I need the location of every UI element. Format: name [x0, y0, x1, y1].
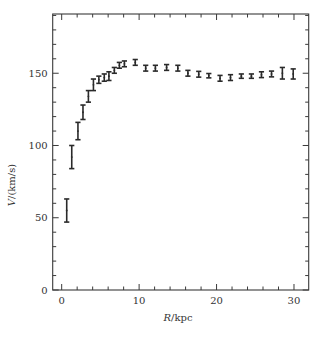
data-point — [106, 72, 111, 81]
y-axis-label-unit: /(km/s) — [6, 164, 17, 199]
data-point — [143, 65, 148, 71]
data-point — [259, 72, 264, 78]
x-tick-label: 30 — [288, 295, 301, 306]
data-point — [86, 91, 91, 103]
x-axis-ticks — [62, 14, 294, 290]
marker — [145, 67, 147, 69]
y-tick-label: 150 — [29, 68, 48, 79]
marker — [240, 75, 242, 77]
y-tick-labels: 050100150 — [29, 68, 48, 296]
data-point — [64, 199, 69, 222]
marker — [187, 72, 189, 74]
data-point — [122, 61, 127, 67]
marker — [66, 210, 68, 212]
marker — [93, 84, 95, 86]
marker — [113, 69, 115, 71]
x-tick-label: 10 — [133, 295, 146, 306]
data-point — [269, 71, 274, 77]
rotation-curve-chart: 0102030 050100150 R/kpc V/(km/s) — [0, 0, 320, 337]
data-point — [175, 65, 180, 71]
x-tick-label: 20 — [210, 295, 223, 306]
data-point — [91, 79, 96, 91]
marker — [134, 62, 136, 64]
data-point — [249, 74, 254, 78]
data-point — [291, 69, 296, 79]
y-tick-label: 100 — [29, 140, 48, 151]
data-point — [102, 74, 107, 81]
marker — [271, 73, 273, 75]
marker — [261, 74, 263, 76]
data-point — [75, 122, 80, 139]
y-axis-ticks — [53, 15, 309, 290]
data-point — [153, 65, 158, 71]
marker — [98, 79, 100, 81]
data-point — [185, 70, 190, 76]
data-point — [117, 62, 122, 68]
marker — [154, 67, 156, 69]
marker — [292, 73, 294, 75]
data-point — [280, 67, 285, 79]
marker — [108, 75, 110, 77]
data-point — [80, 105, 85, 119]
data-point — [239, 74, 244, 78]
data-point — [164, 65, 169, 71]
x-axis-label-unit: /kpc — [171, 312, 193, 323]
y-axis-label: V/(km/s) — [6, 164, 17, 207]
data-point — [133, 60, 138, 66]
marker — [103, 77, 105, 79]
marker — [281, 72, 283, 74]
data-point — [228, 75, 233, 81]
data-point — [206, 74, 211, 78]
marker — [219, 77, 221, 79]
marker — [77, 130, 79, 132]
data-point — [96, 76, 101, 83]
data-point — [217, 75, 222, 81]
marker — [230, 77, 232, 79]
marker — [166, 67, 168, 69]
data-point — [69, 145, 74, 168]
data-point — [112, 67, 117, 73]
marker — [124, 63, 126, 65]
x-axis-label: R/kpc — [163, 312, 193, 323]
marker — [177, 67, 179, 69]
marker — [87, 95, 89, 97]
marker — [250, 75, 252, 77]
marker — [198, 73, 200, 75]
plot-frame — [53, 14, 309, 290]
x-tick-label: 0 — [58, 295, 64, 306]
marker — [208, 75, 210, 77]
x-tick-labels: 0102030 — [58, 295, 300, 306]
data-point — [196, 71, 201, 77]
y-tick-label: 50 — [35, 212, 48, 223]
data-series — [64, 60, 296, 223]
marker — [71, 156, 73, 158]
plot-border — [53, 14, 309, 290]
marker — [118, 64, 120, 66]
y-tick-label: 0 — [41, 285, 47, 296]
marker — [82, 111, 84, 113]
